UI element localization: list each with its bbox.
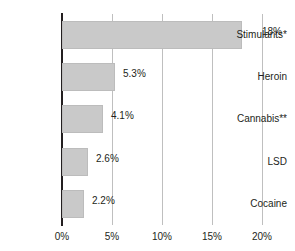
bar-band: 2.6% xyxy=(62,141,262,183)
bar-value-label: 5.3% xyxy=(123,68,146,80)
x-tick-label: 10% xyxy=(152,231,172,243)
bar xyxy=(62,21,242,49)
bar-chart: 18%5.3%4.1%2.6%2.2% Stimulants*HeroinCan… xyxy=(0,0,295,251)
bar-band: 2.2% xyxy=(62,183,262,225)
bar xyxy=(62,190,84,218)
bar xyxy=(62,105,103,133)
category-label: Cocaine xyxy=(250,198,287,210)
bar-band: 18% xyxy=(62,14,262,56)
bar xyxy=(62,148,88,176)
category-label: LSD xyxy=(268,156,287,168)
category-label: Cannabis** xyxy=(237,113,287,125)
bar-band: 5.3% xyxy=(62,56,262,98)
bar-value-label: 2.2% xyxy=(92,195,115,207)
category-label: Heroin xyxy=(258,71,287,83)
category-label: Stimulants* xyxy=(236,29,287,41)
bar xyxy=(62,63,115,91)
x-tick-label: 0% xyxy=(55,231,69,243)
bar-value-label: 2.6% xyxy=(96,153,119,165)
x-tick-label: 5% xyxy=(105,231,119,243)
x-tick-label: 15% xyxy=(202,231,222,243)
x-tick-label: 20% xyxy=(252,231,272,243)
bar-value-label: 4.1% xyxy=(111,110,134,122)
bar-band: 4.1% xyxy=(62,98,262,140)
